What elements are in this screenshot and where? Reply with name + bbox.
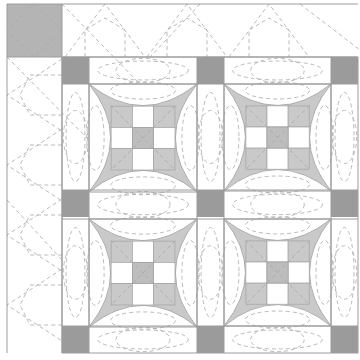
border-quilting [7,199,62,271]
nine-patch-cell [267,106,288,127]
cornerstone [197,57,224,84]
nine-patch-cell [246,262,267,283]
nine-patch-cell [154,262,175,283]
nine-patch-cell [267,148,288,169]
nine-patch-cell [132,284,153,305]
border-quilting [20,75,62,115]
sash-quilting [233,330,323,349]
nine-patch-cell [111,262,132,283]
nine-patch-cell [267,283,288,304]
cornerstone [331,57,358,84]
nine-patch-cell [132,241,153,262]
sash-quilting [335,228,354,318]
quilt-svg [0,0,360,360]
sash-quilting [233,194,323,214]
cornerstone [62,326,89,353]
sash-quilting [201,228,220,318]
nine-patch-cell [246,127,267,148]
sash-quilting [66,92,85,181]
sash-quilting [98,61,189,80]
border-quilting [167,18,207,57]
sash-quilting [201,92,220,181]
border-quilting [20,145,62,185]
cornerstone [62,57,89,84]
cornerstone [197,190,224,217]
quilting-diagonal [300,4,360,50]
border-quilting [20,285,62,325]
corner-block [7,4,62,57]
sash-quilting [335,92,354,181]
sash-quilting [233,61,323,80]
nine-patch-cell [288,127,309,148]
nine-patch-cell [267,241,288,262]
nine-patch-cell [154,127,175,148]
border-quilting [7,269,62,341]
nine-patch-cell [132,106,153,127]
border-quilting [7,59,62,131]
nine-patch-cell [132,149,153,170]
quilt-diagram [0,0,360,360]
sash-quilting [66,228,85,318]
cornerstone [197,326,224,353]
nine-patch-cell [111,127,132,148]
border-quilting [229,4,309,57]
border-quilting [147,4,227,57]
border-quilting [85,18,125,57]
border-quilting [65,4,145,57]
cornerstone [331,190,358,217]
cornerstone [62,190,89,217]
sash-quilting [98,194,189,214]
border-quilting [7,129,62,201]
cornerstone [331,326,358,353]
border-quilting [249,18,289,57]
quilting-diagonal [150,4,200,57]
nine-patch-cell [288,262,309,283]
sash-quilting [98,330,189,349]
